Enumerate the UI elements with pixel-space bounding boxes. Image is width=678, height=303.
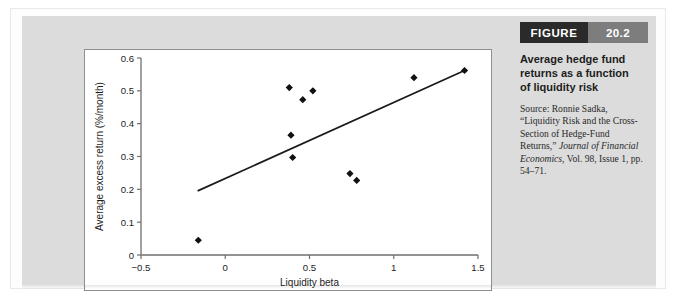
x-tick-label: 1.5 <box>471 262 484 273</box>
figure-page: 00.10.20.30.40.50.6−0.500.511.5Liquidity… <box>0 0 678 303</box>
y-tick-label: 0.1 <box>121 217 134 228</box>
y-tick-label: 0.3 <box>121 151 134 162</box>
y-tick-label: 0.4 <box>121 118 135 129</box>
y-tick-label: 0.5 <box>121 85 134 96</box>
figure-number: 20.2 <box>588 22 648 43</box>
x-tick-label: 1 <box>391 262 396 273</box>
data-point-marker <box>309 87 316 94</box>
data-point-marker <box>461 67 468 74</box>
x-tick-label: 0 <box>223 262 228 273</box>
data-point-marker <box>346 170 353 177</box>
y-tick-label: 0 <box>129 250 134 261</box>
data-point-marker <box>410 74 417 81</box>
x-axis-label: Liquidity beta <box>280 277 339 288</box>
data-point-marker <box>289 154 296 161</box>
data-point-marker <box>287 132 294 139</box>
figure-title: Average hedge fund returns as a function… <box>520 52 642 94</box>
data-point-marker <box>286 84 293 91</box>
trend-line <box>198 70 464 190</box>
y-axis-label: Average excess return (%/month) <box>94 82 105 231</box>
caption-column: FIGURE 20.2 Average hedge fund returns a… <box>520 22 652 177</box>
figure-label: FIGURE <box>520 22 588 43</box>
y-tick-label: 0.6 <box>121 53 134 64</box>
x-tick-label: −0.5 <box>132 262 151 273</box>
x-tick-label: 0.5 <box>303 262 316 273</box>
figure-header-banner: FIGURE 20.2 <box>520 22 648 43</box>
scatter-plot: 00.10.20.30.40.50.6−0.500.511.5Liquidity… <box>85 50 491 290</box>
data-point-marker <box>353 177 360 184</box>
data-point-marker <box>299 96 306 103</box>
data-point-marker <box>195 237 202 244</box>
chart-card: 00.10.20.30.40.50.6−0.500.511.5Liquidity… <box>84 49 492 291</box>
y-tick-label: 0.2 <box>121 184 134 195</box>
figure-source: Source: Ronnie Sadka, “Liquidity Risk an… <box>520 103 646 177</box>
